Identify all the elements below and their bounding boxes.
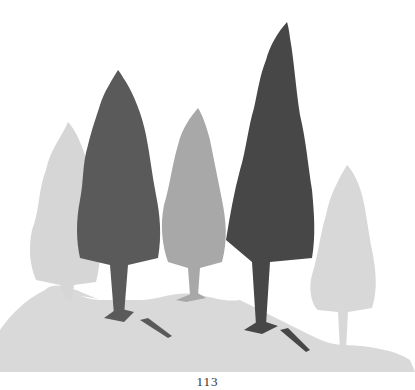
dark-tree-left	[77, 70, 172, 338]
light-tree-middle	[162, 108, 226, 302]
page-number: 113	[0, 374, 415, 390]
forest-illustration	[0, 0, 415, 375]
pale-tree-right	[310, 165, 375, 350]
